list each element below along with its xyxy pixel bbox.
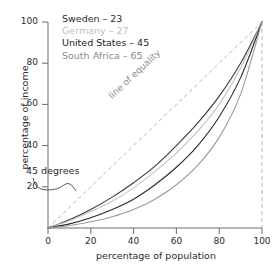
y-tick-label-100: 100 [12, 16, 38, 26]
x-tick-label-80: 80 [206, 236, 232, 246]
legend-item-germany: Germany – 27 [62, 25, 149, 37]
chart-legend: Sweden – 23 Germany – 27 United States –… [62, 13, 149, 62]
annotation-45-degrees: 45 degrees [26, 165, 79, 176]
legend-item-united-states: United States – 45 [62, 37, 149, 49]
x-tick-label-20: 20 [78, 236, 104, 246]
legend-item-sweden: Sweden – 23 [62, 13, 149, 25]
x-axis-title: percentage of population [48, 250, 264, 261]
x-tick-label-100: 100 [249, 236, 275, 246]
x-tick-label-40: 40 [121, 236, 147, 246]
lorenz-curve-chart: 100 80 60 40 20 0 20 40 60 80 100 percen… [0, 0, 277, 271]
annotation-leader-line [33, 178, 76, 191]
x-tick-label-0: 0 [35, 236, 61, 246]
legend-item-south-africa: South Africa – 65 [62, 50, 149, 62]
x-tick-label-60: 60 [163, 236, 189, 246]
